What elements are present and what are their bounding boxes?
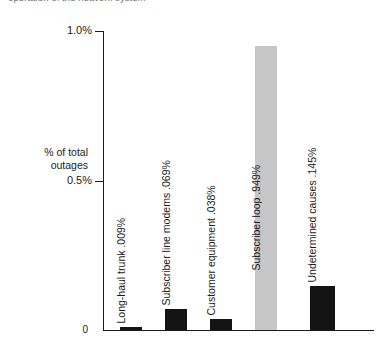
bar-subscriber-line-modems[interactable]: Subscriber line modems .069% — [165, 30, 187, 330]
y-tick-label-0: 0 — [82, 324, 88, 335]
bar-label: Subscriber loop .949% — [250, 164, 261, 270]
bar-rect — [310, 286, 335, 330]
bar-chart: 1.0% 0.5% 0 % of total outages Long-haul… — [0, 0, 385, 351]
bar-undetermined-causes[interactable]: Undetermined causes .145% — [310, 30, 335, 330]
bar-label: Customer equipment .038% — [205, 185, 216, 315]
y-tick-label-05: 0.5% — [67, 175, 92, 186]
y-axis-title: % of total outages — [8, 146, 88, 172]
y-tick-label-1: 1.0% — [67, 25, 92, 36]
y-tick-mark-05 — [95, 181, 103, 182]
bar-rect — [120, 327, 142, 330]
bar-label: Subscriber line modems .069% — [160, 160, 171, 305]
y-axis-title-line-2: outages — [8, 159, 88, 172]
bar-customer-equipment[interactable]: Customer equipment .038% — [210, 30, 232, 330]
bar-label: Long-haul trunk .009% — [115, 217, 126, 323]
bar-subscriber-loop[interactable]: Subscriber loop .949% — [255, 30, 277, 330]
bar-rect — [165, 309, 187, 330]
y-axis-title-line-1: % of total — [8, 146, 88, 159]
bar-long-haul-trunk[interactable]: Long-haul trunk .009% — [120, 30, 142, 330]
y-tick-mark-1 — [95, 31, 103, 32]
x-axis-line — [103, 330, 374, 331]
y-axis-line — [103, 31, 104, 331]
bar-rect — [210, 319, 232, 330]
bar-label: Undetermined causes .145% — [306, 147, 317, 282]
